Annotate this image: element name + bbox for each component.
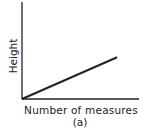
y-axis-label: Height <box>7 31 19 81</box>
panel-label: (a) <box>60 116 100 128</box>
x-axis-label: Number of measures <box>22 104 140 116</box>
data-line <box>22 57 117 99</box>
